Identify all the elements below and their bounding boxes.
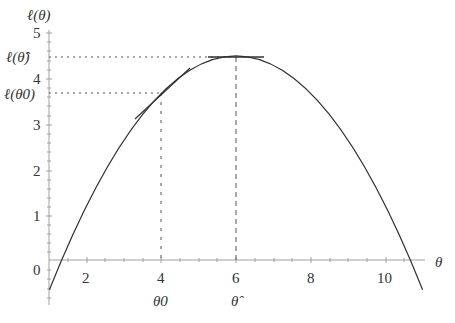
thetahat-label: θ̂ bbox=[231, 293, 244, 309]
likelihood-curve bbox=[49, 56, 422, 290]
x-tick-label: 4 bbox=[157, 270, 165, 286]
l-thetahat-label: ℓ(θ̂) bbox=[6, 49, 31, 66]
likelihood-chart: 5 4 3 2 1 0 2 4 6 8 10 ℓ(θ) θ ℓ(θ̂) ℓ(θ0… bbox=[0, 0, 455, 323]
l-theta0-label: ℓ(θ0) bbox=[4, 86, 35, 103]
x-tick-label: 6 bbox=[232, 270, 240, 286]
y-tick-label: 2 bbox=[33, 163, 41, 179]
x-tick-label: 8 bbox=[307, 270, 315, 286]
y-tick-label: 1 bbox=[33, 208, 41, 224]
x-axis-title: θ bbox=[435, 254, 443, 270]
x-tick-label: 10 bbox=[377, 270, 392, 286]
y-tick-label: 3 bbox=[33, 117, 41, 133]
y-tick-label: 4 bbox=[33, 71, 41, 87]
x-tick-label: 2 bbox=[82, 270, 90, 286]
y-axis-title: ℓ(θ) bbox=[27, 7, 51, 24]
y-tick-label: 5 bbox=[33, 25, 41, 41]
y-tick-label: 0 bbox=[33, 262, 41, 278]
tangent-theta0 bbox=[135, 68, 190, 119]
theta0-label: θ0 bbox=[153, 293, 168, 309]
